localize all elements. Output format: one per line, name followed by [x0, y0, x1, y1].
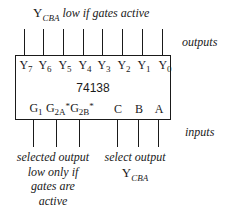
output-line-y5 [63, 29, 64, 55]
output-line-y0 [162, 29, 163, 55]
chip-74138: Y7 Y6 Y5 Y4 Y3 Y2 Y1 Y0 74138 G1 G2A* G2… [15, 55, 171, 120]
pin-y2: Y2 [117, 59, 130, 71]
pin-a: A [155, 103, 164, 115]
output-line-y7 [24, 29, 25, 55]
pin-y6: Y6 [38, 59, 51, 71]
top-caption: YCBA low if gates active [33, 6, 149, 21]
active-low-marker: * [89, 101, 94, 111]
input-line-g1 [33, 120, 34, 147]
select-caption-symbol: Y [122, 165, 131, 180]
select-caption-symbol-line: YCBA [98, 166, 172, 181]
pin-y1: Y1 [137, 59, 150, 71]
pin-c: C [114, 103, 122, 115]
pin-g2b: G2B* [70, 102, 94, 114]
pin-y5: Y5 [58, 59, 71, 71]
gate-caption-line-3: gates are [6, 179, 100, 194]
outputs-label: outputs [182, 35, 217, 50]
top-caption-text: low if gates active [62, 6, 149, 20]
pin-y4: Y4 [78, 59, 91, 71]
input-line-g2a [56, 120, 57, 147]
pin-y0: Y0 [158, 59, 171, 71]
chip-part-number: 74138 [16, 81, 170, 95]
gate-caption-line-1: selected output [6, 150, 100, 165]
pin-b: B [135, 103, 143, 115]
input-line-c [117, 120, 118, 147]
output-line-y4 [83, 29, 84, 55]
gate-caption-line-2: low only if [6, 165, 100, 180]
pin-y3: Y3 [97, 59, 110, 71]
input-line-g2b [79, 120, 80, 147]
gate-caption: selected output low only if gates are ac… [6, 150, 100, 208]
pin-y7: Y7 [19, 59, 32, 71]
select-caption: select output YCBA [98, 150, 172, 180]
input-line-a [158, 120, 159, 147]
inputs-label: inputs [185, 125, 214, 140]
output-line-y6 [43, 29, 44, 55]
pin-g2a: G2A* [46, 102, 70, 114]
pin-g1: G1 [29, 102, 42, 114]
gate-caption-line-4: active [6, 194, 100, 209]
top-caption-subscript: CBA [42, 13, 59, 23]
output-line-y3 [102, 29, 103, 55]
select-caption-line-1: select output [98, 150, 172, 165]
select-caption-subscript: CBA [131, 173, 148, 183]
top-caption-symbol: Y [33, 5, 42, 20]
output-line-y1 [142, 29, 143, 55]
input-line-b [138, 120, 139, 147]
output-line-y2 [122, 29, 123, 55]
